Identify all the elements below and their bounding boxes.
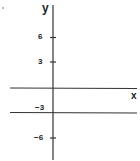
coordinate-plane — [0, 0, 140, 161]
tick-label-3: 3 — [38, 58, 42, 66]
tick-label-minus-3: −3 — [35, 104, 44, 112]
stray-dot — [2, 7, 4, 9]
x-axis — [10, 88, 137, 89]
tick-label-6: 6 — [38, 33, 42, 41]
y-axis-label: y — [42, 2, 49, 14]
tick-label-minus-6: −6 — [34, 134, 43, 142]
line-y-equals-minus-3 — [10, 113, 137, 114]
x-axis-label: x — [131, 91, 137, 101]
